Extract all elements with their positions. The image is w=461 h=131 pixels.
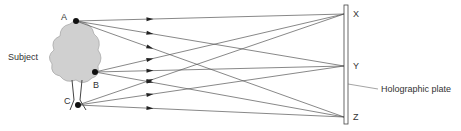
- ray-b-y: [95, 66, 344, 72]
- ray-b-x: [95, 14, 344, 72]
- holographic-plate: [344, 5, 348, 124]
- arrowhead-b-x: [146, 58, 153, 62]
- tree-icon: [49, 20, 101, 110]
- plate-point-label-z: Z: [353, 112, 359, 122]
- plate-leader-line: [348, 84, 378, 89]
- point-label-b: B: [93, 80, 99, 90]
- plate-point-label-y: Y: [353, 61, 359, 71]
- hologram-diagram: Subject Holographic plate A B C X Y Z: [0, 0, 461, 131]
- ray-c-y: [78, 66, 344, 105]
- arrowhead-c-y: [146, 93, 153, 97]
- point-label-a: A: [61, 12, 67, 22]
- arrowhead-a-y: [146, 31, 153, 35]
- point-label-c: C: [64, 96, 71, 106]
- ray-c-z: [78, 105, 344, 117]
- arrowhead-b-y: [146, 69, 153, 73]
- arrowhead-a-z: [146, 44, 153, 48]
- arrowhead-a-x: [146, 17, 153, 21]
- ray-b-z: [95, 72, 344, 117]
- source-point-b: [92, 69, 98, 75]
- plate-label: Holographic plate: [381, 84, 451, 94]
- source-point-c: [75, 102, 81, 108]
- ray-a-x: [76, 14, 344, 21]
- subject-label: Subject: [8, 52, 39, 62]
- source-point-a: [73, 18, 79, 24]
- arrowhead-c-z: [146, 106, 153, 110]
- plate-point-label-x: X: [353, 9, 359, 19]
